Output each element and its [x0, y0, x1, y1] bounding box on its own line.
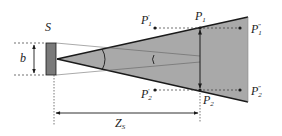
optics-diagram: S b ZS P1′ P1 P1″ P2′ P2 P2″: [0, 0, 282, 136]
label-s: S: [45, 20, 51, 34]
source-block: [46, 43, 56, 75]
point-p2-dprime: [238, 88, 241, 91]
point-p1: [198, 26, 201, 29]
label-p2-prime: P2′: [140, 87, 152, 102]
label-p2: P2: [202, 93, 214, 108]
point-p1-prime: [153, 26, 156, 29]
label-zs: ZS: [115, 116, 126, 131]
point-p2-prime: [153, 88, 156, 91]
label-p2-dprime: P2″: [250, 84, 262, 99]
point-p2: [198, 88, 201, 91]
label-p1-dprime: P1″: [250, 22, 262, 37]
point-p1-dprime: [238, 26, 241, 29]
label-b: b: [20, 51, 26, 65]
label-p1: P1: [194, 9, 206, 24]
label-p1-prime: P1′: [140, 13, 152, 28]
